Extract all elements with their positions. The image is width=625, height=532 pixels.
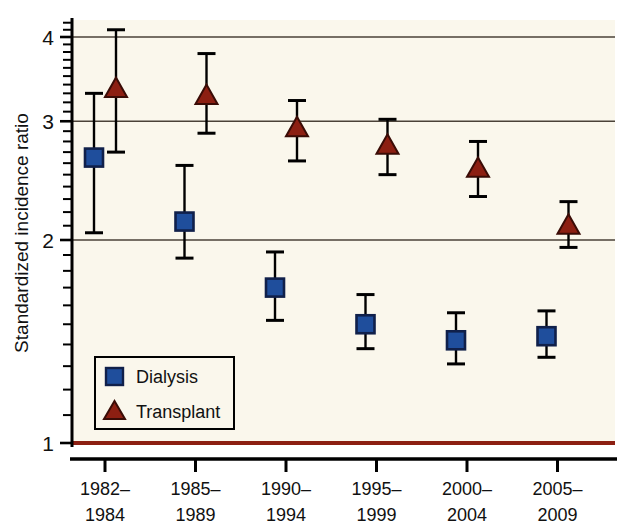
y-axis-tick-labels-group: 1234 [42,26,54,455]
incidence-ratio-chart: 1234 1982–19841985–19891990–19941995–199… [0,0,625,532]
x-tick-label-4-line1: 2004 [447,505,487,525]
marker-square-dialysis-1 [176,213,194,231]
x-tick-label-1-line0: 1985– [170,479,220,499]
x-axis-ticks-group [105,459,558,472]
x-axis-tick-labels-group: 1982–19841985–19891990–19941995–19992000… [80,479,583,525]
marker-square-dialysis-4 [447,331,465,349]
x-tick-label-5-line0: 2005– [532,479,582,499]
y-axis-ticks-group [60,23,72,443]
x-tick-label-2-line0: 1990– [261,479,311,499]
x-tick-label-0-line0: 1982– [80,479,130,499]
legend-marker-square [106,368,123,385]
x-tick-label-4-line0: 2000– [442,479,492,499]
x-tick-label-3-line0: 1995– [351,479,401,499]
marker-square-dialysis-5 [538,327,556,345]
marker-square-dialysis-0 [85,149,103,167]
x-tick-label-5-line1: 2009 [537,505,577,525]
legend-label-dialysis: Dialysis [136,367,198,387]
legend-label-transplant: Transplant [136,402,220,422]
figure-container: 1234 1982–19841985–19891990–19941995–199… [0,0,625,532]
y-tick-label-4: 4 [42,26,54,49]
x-tick-label-1-line1: 1989 [175,505,215,525]
y-tick-label-1: 1 [42,432,54,455]
x-tick-label-0-line1: 1984 [85,505,125,525]
y-tick-label-3: 3 [42,110,54,133]
x-tick-label-2-line1: 1994 [266,505,306,525]
y-tick-label-2: 2 [42,229,54,252]
marker-square-dialysis-3 [357,315,375,333]
y-axis-title: Standardized incidence ratio [11,113,32,353]
x-tick-label-3-line1: 1999 [356,505,396,525]
legend: DialysisTransplant [95,357,234,429]
marker-square-dialysis-2 [266,279,284,297]
